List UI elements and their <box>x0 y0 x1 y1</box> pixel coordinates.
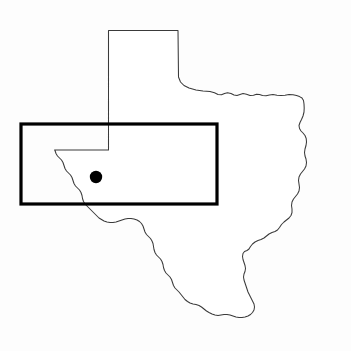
site-location-dot[interactable] <box>90 171 102 183</box>
map-figure: Outline map of Texas with highlighted re… <box>0 0 351 351</box>
map-canvas <box>0 0 351 351</box>
